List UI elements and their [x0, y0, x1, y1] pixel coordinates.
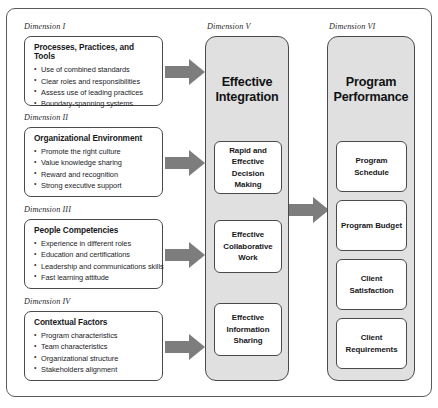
dimension-iv-title: Contextual Factors: [34, 318, 155, 327]
list-item: Program characteristics: [34, 330, 155, 341]
dimension-v-box-decision-making: Rapid and Effective Decision Making: [214, 141, 282, 194]
dimension-i-list: Use of combined standards Clear roles an…: [34, 64, 155, 109]
list-item: Boundary-spanning systems: [34, 98, 155, 109]
list-item: Value knowledge sharing: [34, 157, 155, 168]
dimension-vi-box-client-satisfaction: Client Satisfaction: [336, 259, 407, 310]
list-item: Clear roles and responsibilities: [34, 76, 155, 87]
list-item: Use of combined standards: [34, 64, 155, 75]
list-item: Education and certifications: [34, 249, 155, 260]
dimension-iii-title: People Competencies: [34, 226, 155, 235]
dimension-iii-list: Experience in different roles Education …: [34, 238, 155, 283]
list-item: Promote the right culture: [34, 146, 155, 157]
sub-box-label: Effective Collaborative Work: [215, 229, 281, 263]
dimension-v-title-line1: Effective: [222, 75, 273, 89]
dimension-ii-box: Organizational Environment Promote the r…: [24, 127, 163, 197]
dimension-iv-box: Contextual Factors Program characteristi…: [24, 311, 163, 381]
dimension-iii-box: People Competencies Experience in differ…: [24, 219, 163, 289]
dimension-v-column: Effective Integration Rapid and Effectiv…: [205, 36, 289, 381]
sub-box-label: Program Budget: [338, 220, 405, 231]
dimension-vi-box-program-budget: Program Budget: [336, 200, 407, 251]
sub-box-label: Client Satisfaction: [337, 273, 406, 296]
dimension-iv-list: Program characteristics Team characteris…: [34, 330, 155, 375]
dimension-v-box-information-sharing: Effective Information Sharing: [214, 303, 282, 356]
sub-box-label: Effective Information Sharing: [215, 312, 281, 346]
list-item: Experience in different roles: [34, 238, 155, 249]
dimension-ii-title: Organizational Environment: [34, 134, 155, 143]
sub-box-label: Program Schedule: [337, 155, 406, 178]
dimension-vi-box-program-schedule: Program Schedule: [336, 141, 407, 192]
flow-arrow-right-icon: [164, 148, 206, 178]
list-item: Stakeholders alignment: [34, 364, 155, 375]
framework-diagram: Dimension I Processes, Practices, and To…: [0, 0, 438, 408]
list-item: Organizational structure: [34, 353, 155, 364]
list-item: Leadership and communications skills: [34, 261, 155, 272]
dimension-iv-caption: Dimension IV: [24, 297, 70, 306]
dimension-vi-title-line2: Performance: [334, 90, 409, 104]
dimension-i-title: Processes, Practices, and Tools: [34, 43, 155, 61]
dimension-v-box-collaborative-work: Effective Collaborative Work: [214, 220, 282, 273]
dimension-i-box: Processes, Practices, and Tools Use of c…: [24, 36, 163, 106]
sub-box-label: Rapid and Effective Decision Making: [215, 145, 281, 191]
dimension-i-caption: Dimension I: [24, 22, 65, 31]
dimension-vi-column: Program Performance Program Schedule Pro…: [327, 36, 415, 381]
flow-arrow-right-icon: [164, 332, 206, 362]
list-item: Reward and recognition: [34, 169, 155, 180]
dimension-iii-caption: Dimension III: [24, 205, 71, 214]
flow-arrow-right-icon: [288, 195, 330, 225]
dimension-v-title-line2: Integration: [216, 90, 279, 104]
dimension-v-caption: Dimension V: [207, 22, 251, 31]
dimension-vi-box-client-requirements: Client Requirements: [336, 318, 407, 369]
list-item: Team characteristics: [34, 341, 155, 352]
sub-box-label: Client Requirements: [337, 332, 406, 355]
list-item: Strong executive support: [34, 180, 155, 191]
flow-arrow-right-icon: [164, 57, 206, 87]
dimension-ii-list: Promote the right culture Value knowledg…: [34, 146, 155, 191]
dimension-ii-caption: Dimension II: [24, 113, 68, 122]
flow-arrow-right-icon: [164, 240, 206, 270]
list-item: Assess use of leading practices: [34, 87, 155, 98]
dimension-vi-caption: Dimension VI: [329, 22, 375, 31]
dimension-vi-title-line1: Program: [346, 75, 396, 89]
list-item: Fast learning attitude: [34, 272, 155, 283]
